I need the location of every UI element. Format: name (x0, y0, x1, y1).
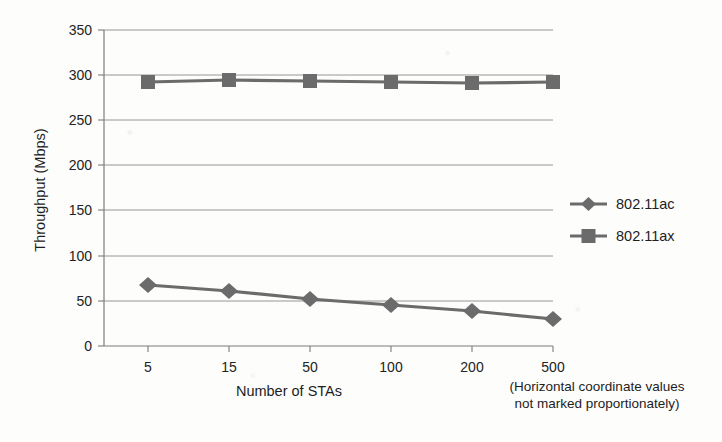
data-point-ax-5 (141, 75, 155, 89)
data-point-ac-5 (139, 277, 157, 293)
x-tick-marks (148, 346, 553, 352)
data-point-ax-50 (303, 74, 317, 88)
y-axis-title: Throughput (Mbps) (32, 128, 48, 251)
legend-item-802-11ac[interactable]: 802.11ac (570, 196, 675, 212)
footnote-line-1: (Horizontal coordinate values (510, 379, 685, 394)
y-tick-label-100: 100 (69, 248, 93, 264)
chart-legend: 802.11ac 802.11ax (570, 196, 675, 244)
x-tick-label-15: 15 (221, 359, 237, 375)
data-point-ac-15 (220, 283, 238, 299)
data-point-ax-15 (222, 73, 236, 87)
legend-marker-diamond-icon (581, 197, 596, 211)
data-point-ax-100 (384, 75, 398, 89)
footnote-line-2: not marked proportionately) (514, 396, 679, 411)
series-line-802-11ax (148, 80, 553, 83)
x-axis-title: Number of STAs (236, 383, 342, 399)
gridlines (104, 30, 553, 301)
series-802-11ac (139, 277, 562, 327)
chart-container: 350 300 250 200 150 100 50 0 5 15 50 100… (0, 0, 722, 442)
legend-item-802-11ax[interactable]: 802.11ax (570, 228, 675, 244)
y-tick-label-300: 300 (69, 67, 93, 83)
y-tick-label-50: 50 (76, 293, 92, 309)
data-point-ac-200 (463, 303, 481, 319)
axes (104, 30, 553, 346)
x-tick-label-100: 100 (379, 359, 403, 375)
throughput-line-chart: 350 300 250 200 150 100 50 0 5 15 50 100… (0, 0, 722, 442)
y-tick-label-350: 350 (69, 22, 93, 38)
y-tick-label-150: 150 (69, 202, 93, 218)
data-point-ac-500 (544, 311, 562, 327)
y-tick-label-0: 0 (84, 338, 92, 354)
data-point-ax-500 (546, 75, 560, 89)
x-tick-label-500: 500 (541, 359, 565, 375)
series-line-802-11ac (148, 285, 553, 319)
legend-label-802-11ax: 802.11ax (616, 228, 675, 244)
data-point-ax-200 (465, 76, 479, 90)
legend-marker-square-icon (582, 229, 596, 243)
x-tick-label-200: 200 (460, 359, 484, 375)
x-tick-label-50: 50 (302, 359, 318, 375)
data-point-ac-50 (301, 291, 319, 307)
chart-footnote: (Horizontal coordinate values not marked… (510, 379, 685, 411)
y-tick-label-250: 250 (69, 112, 93, 128)
x-tick-labels: 5 15 50 100 200 500 (144, 359, 565, 375)
y-tick-label-200: 200 (69, 157, 93, 173)
data-point-ac-100 (382, 297, 400, 313)
x-tick-label-5: 5 (144, 359, 152, 375)
y-tick-labels: 350 300 250 200 150 100 50 0 (69, 22, 93, 354)
series-802-11ax (141, 73, 560, 90)
y-tick-marks (98, 30, 104, 346)
legend-label-802-11ac: 802.11ac (616, 196, 675, 212)
